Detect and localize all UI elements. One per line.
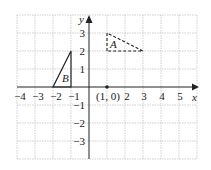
x-tick: 4 (159, 90, 165, 102)
triangle-a-label: A (109, 38, 117, 50)
x-tick: −4 (14, 90, 26, 102)
x-tick: −3 (32, 90, 44, 102)
coordinate-plane: −4 −3 −2 −1 2 3 4 5 x y 3 2 1 −1 −2 −3 (… (0, 0, 211, 170)
y-axis-arrow-icon (86, 15, 93, 23)
y-tick: −3 (73, 135, 85, 147)
point-marker (105, 85, 109, 89)
point-label: (1, 0) (96, 90, 120, 103)
y-tick: 1 (80, 63, 86, 75)
x-axis-arrow-icon (192, 84, 199, 91)
y-axis-label: y (78, 13, 84, 25)
x-axis-label: x (191, 91, 197, 103)
y-tick: 3 (80, 27, 86, 39)
y-tick: −1 (73, 99, 85, 111)
y-tick: −2 (73, 117, 85, 129)
x-tick: 3 (141, 90, 147, 102)
x-tick: −2 (50, 90, 62, 102)
x-tick: 2 (124, 90, 130, 102)
triangle-b-label: B (62, 72, 69, 84)
y-tick: 2 (80, 45, 86, 57)
x-tick: 5 (177, 90, 183, 102)
